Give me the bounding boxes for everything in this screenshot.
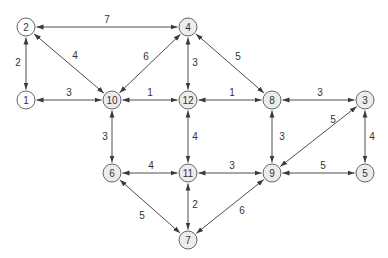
edge-weight-label: 4 [369, 131, 375, 142]
node-label: 1 [23, 95, 29, 106]
edge-weight-label: 6 [239, 205, 245, 216]
edge-weight-label: 1 [147, 87, 153, 98]
edge-weight-label: 3 [279, 131, 285, 142]
edge-weight-label: 3 [229, 160, 235, 171]
node-3: 3 [356, 91, 374, 109]
node-10: 10 [103, 91, 121, 109]
node-9: 9 [263, 164, 281, 182]
node-label: 8 [269, 95, 275, 106]
edge-weight-label: 3 [192, 57, 198, 68]
edge-6-7 [120, 180, 180, 233]
node-label: 11 [183, 168, 194, 179]
edge-labels-layer: 724635311334345435526 [15, 14, 375, 221]
node-4: 4 [179, 18, 197, 36]
node-7: 7 [179, 231, 197, 249]
node-label: 5 [362, 168, 368, 179]
edge-weight-label: 4 [72, 50, 78, 61]
edge-weight-label: 6 [143, 51, 149, 62]
edge-4-8 [196, 34, 264, 93]
node-label: 10 [106, 95, 118, 106]
node-8: 8 [263, 91, 281, 109]
node-1: 1 [17, 91, 35, 109]
edge-weight-label: 5 [320, 160, 326, 171]
edge-weight-label: 2 [15, 57, 21, 68]
edge-9-7 [196, 180, 264, 234]
node-12: 12 [179, 91, 197, 109]
node-label: 3 [362, 95, 368, 106]
node-5: 5 [356, 164, 374, 182]
graph-diagram: 724635311334345435526 123456789101112 [0, 0, 388, 258]
edge-weight-label: 2 [192, 199, 198, 210]
node-label: 7 [185, 235, 191, 246]
edge-weight-label: 4 [192, 131, 198, 142]
edge-weight-label: 3 [102, 131, 108, 142]
edge-weight-label: 3 [317, 87, 323, 98]
node-label: 4 [185, 22, 191, 33]
node-2: 2 [17, 18, 35, 36]
node-11: 11 [179, 164, 197, 182]
edge-weight-label: 1 [229, 87, 235, 98]
edge-weight-label: 4 [148, 160, 154, 171]
edge-9-3 [280, 106, 356, 166]
edge-weight-label: 5 [139, 210, 145, 221]
edge-weight-label: 7 [104, 14, 110, 25]
node-label: 2 [23, 22, 29, 33]
node-label: 9 [269, 168, 275, 179]
edge-2-10 [34, 34, 104, 93]
edge-weight-label: 3 [66, 87, 72, 98]
node-label: 6 [109, 168, 115, 179]
node-label: 12 [182, 95, 194, 106]
edge-weight-label: 5 [235, 51, 241, 62]
edge-weight-label: 5 [330, 114, 336, 125]
node-6: 6 [103, 164, 121, 182]
edge-4-10 [120, 34, 181, 92]
